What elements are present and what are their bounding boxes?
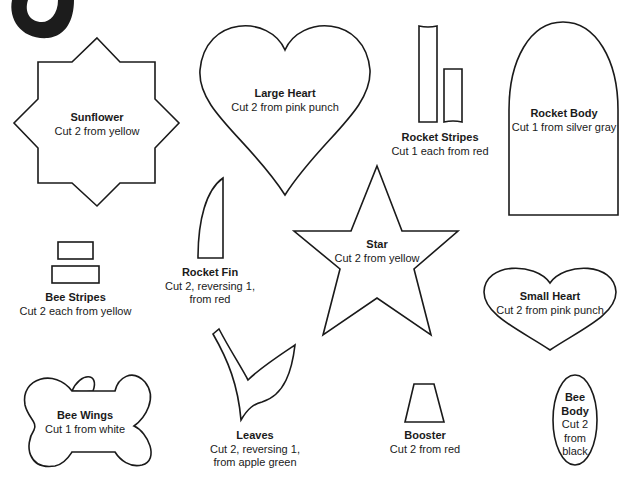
pattern-name: Leaves bbox=[205, 429, 305, 443]
pattern-instructions: from red bbox=[160, 293, 260, 307]
rocket-fin-shape bbox=[198, 178, 223, 258]
pattern-name: Rocket Body bbox=[508, 107, 620, 121]
bee-stripe-large-shape bbox=[52, 266, 99, 283]
pattern-instructions: Cut 2 from red bbox=[375, 443, 475, 457]
pattern-name: Bee Wings bbox=[35, 409, 135, 423]
small-heart-label: Small Heart Cut 2 from pink punch bbox=[495, 290, 605, 317]
pattern-instructions: Cut 1 each from red bbox=[385, 145, 495, 159]
pattern-instructions: Cut 2, reversing 1, bbox=[205, 443, 305, 457]
rocket-body-label: Rocket Body Cut 1 from silver gray bbox=[508, 107, 620, 134]
booster-shape bbox=[405, 384, 444, 422]
pattern-name: Bee Stripes bbox=[18, 291, 133, 305]
pattern-name: Rocket Stripes bbox=[385, 131, 495, 145]
booster-label: Booster Cut 2 from red bbox=[375, 429, 475, 456]
pattern-instructions: Cut 1 from white bbox=[35, 423, 135, 437]
pattern-name: Bee bbox=[550, 391, 600, 405]
leaves-label: Leaves Cut 2, reversing 1, from apple gr… bbox=[205, 429, 305, 470]
pattern-name: Small Heart bbox=[495, 290, 605, 304]
rocket-stripe-short-shape bbox=[444, 69, 462, 122]
star-label: Star Cut 2 from yellow bbox=[327, 238, 427, 265]
pattern-instructions: Cut 2, reversing 1, bbox=[160, 280, 260, 294]
pattern-instructions: Cut 2 bbox=[550, 418, 600, 432]
sunflower-label: Sunflower Cut 2 from yellow bbox=[47, 111, 147, 138]
pattern-instructions: black bbox=[550, 445, 600, 459]
pattern-name: Rocket Fin bbox=[160, 266, 260, 280]
pattern-instructions: Cut 1 from silver gray bbox=[508, 121, 620, 135]
leaves-shape bbox=[213, 329, 295, 420]
pattern-instructions: Cut 2 from pink punch bbox=[495, 304, 605, 318]
pattern-name-line2: Body bbox=[550, 405, 600, 419]
pattern-instructions: Cut 2 each from yellow bbox=[18, 305, 133, 319]
corner-ring-graphic bbox=[11, 0, 74, 38]
bee-body-label: Bee Body Cut 2 from black bbox=[550, 391, 600, 459]
bee-stripes-label: Bee Stripes Cut 2 each from yellow bbox=[18, 291, 133, 318]
pattern-instructions: Cut 2 from yellow bbox=[47, 125, 147, 139]
pattern-name: Sunflower bbox=[47, 111, 147, 125]
large-heart-label: Large Heart Cut 2 from pink punch bbox=[230, 87, 340, 114]
pattern-instructions: Cut 2 from yellow bbox=[327, 252, 427, 266]
pattern-instructions: Cut 2 from pink punch bbox=[230, 101, 340, 115]
rocket-stripe-long-shape bbox=[419, 26, 437, 122]
pattern-name: Star bbox=[327, 238, 427, 252]
pattern-name: Large Heart bbox=[230, 87, 340, 101]
bee-wings-label: Bee Wings Cut 1 from white bbox=[35, 409, 135, 436]
bee-wings-shape bbox=[72, 377, 94, 392]
pattern-name: Booster bbox=[375, 429, 475, 443]
rocket-stripes-label: Rocket Stripes Cut 1 each from red bbox=[385, 131, 495, 158]
pattern-instructions: from bbox=[550, 432, 600, 446]
pattern-instructions: from apple green bbox=[205, 456, 305, 470]
rocket-fin-label: Rocket Fin Cut 2, reversing 1, from red bbox=[160, 266, 260, 307]
bee-stripe-small-shape bbox=[58, 242, 93, 259]
